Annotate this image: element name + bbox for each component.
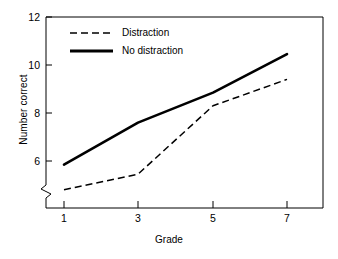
- series-line-distraction: [64, 79, 287, 189]
- series-line-no-distraction: [64, 54, 287, 164]
- legend-label-no-distraction: No distraction: [122, 45, 183, 56]
- y-axis-break-symbol: [41, 185, 51, 208]
- x-tick-label-7: 7: [277, 212, 297, 224]
- y-axis-label: Number correct: [18, 45, 29, 175]
- figure-line-chart: 12 10 8 6 1 3 5 7 Number correct Grade D…: [0, 0, 338, 259]
- y-tick-label-12: 12: [18, 11, 40, 23]
- x-tick-label-3: 3: [128, 212, 148, 224]
- legend-label-distraction: Distraction: [122, 27, 169, 38]
- x-axis-label: Grade: [0, 234, 338, 245]
- x-tick-label-1: 1: [54, 212, 74, 224]
- x-tick-label-5: 5: [203, 212, 223, 224]
